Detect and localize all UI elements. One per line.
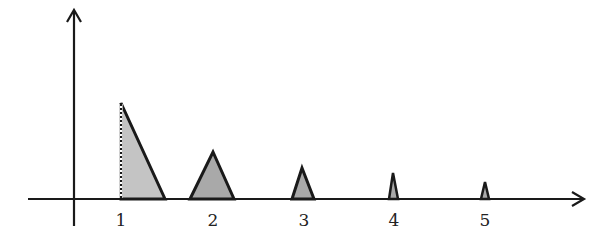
- tick-label-3: 3: [299, 210, 310, 230]
- diagram-canvas: 1 2 3 4 5: [0, 0, 594, 246]
- triangle-5: [481, 182, 489, 199]
- tick-label-5: 5: [480, 210, 491, 230]
- tick-label-1: 1: [116, 210, 127, 230]
- triangle-1: [121, 103, 165, 199]
- triangle-3: [292, 168, 314, 199]
- tick-label-4: 4: [389, 210, 400, 230]
- triangle-2: [190, 152, 234, 199]
- tick-label-2: 2: [208, 210, 219, 230]
- triangle-4: [389, 173, 398, 199]
